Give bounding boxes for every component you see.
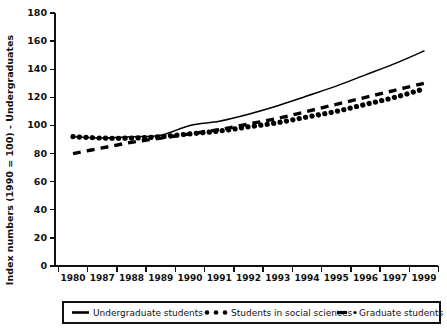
legend-label-students-in-social-sciences: Students in social sciences (231, 308, 352, 318)
chart-canvas: Index numbers (1990 = 100) - Undergradua… (0, 0, 447, 332)
x-tick-label-1996: 1996 (353, 273, 378, 283)
legend-label-graduate-students: Graduate students (359, 308, 443, 318)
x-tick-label-1988: 1988 (119, 273, 144, 283)
legend-marker-graduate-students-dot (353, 311, 356, 314)
y-tick-label-120: 120 (27, 91, 47, 102)
x-axis-ticks: 1980198719881989199019911992199319941995… (58, 266, 438, 283)
y-tick-label-80: 80 (34, 148, 48, 159)
chart-legend: Undergraduate students Students in socia… (63, 302, 443, 323)
x-tick-label-1994: 1994 (294, 273, 319, 283)
x-tick-label-1995: 1995 (324, 273, 349, 283)
x-tick-label-1991: 1991 (207, 273, 232, 283)
x-tick-label-1993: 1993 (265, 273, 290, 283)
x-tick-label-1999: 1999 (411, 273, 436, 283)
legend-marker-social-sciences-dot-1 (205, 310, 210, 315)
x-tick-label-1990: 1990 (177, 273, 202, 283)
x-tick-label-1980: 1980 (60, 273, 85, 283)
y-tick-label-60: 60 (34, 176, 48, 187)
chart-figure: Index numbers (1990 = 100) - Undergradua… (0, 0, 447, 332)
y-tick-label-40: 40 (34, 204, 48, 215)
x-tick-label-1989: 1989 (148, 273, 173, 283)
y-tick-label-20: 20 (34, 232, 48, 243)
y-tick-label-140: 140 (27, 63, 47, 74)
x-tick-label-1987: 1987 (90, 273, 115, 283)
y-axis-ticks: 020406080100120140160180 (27, 7, 55, 271)
y-tick-label-180: 180 (27, 7, 47, 18)
legend-marker-social-sciences-dot-3 (223, 310, 228, 315)
legend-marker-social-sciences-dot-2 (214, 310, 219, 315)
y-tick-label-160: 160 (27, 35, 47, 46)
y-tick-label-100: 100 (27, 119, 47, 130)
y-axis-title: Index numbers (1990 = 100) - Undergradua… (4, 35, 15, 286)
legend-label-undergraduate-students: Undergraduate students (93, 308, 203, 318)
x-tick-label-1992: 1992 (236, 273, 261, 283)
y-axis-title-text: Index numbers (1990 = 100) - Undergradua… (4, 35, 15, 286)
series-line-graduate-students (73, 83, 424, 153)
series-layer (73, 51, 424, 154)
x-tick-label-1997: 1997 (382, 273, 407, 283)
y-tick-label-0: 0 (40, 260, 47, 271)
